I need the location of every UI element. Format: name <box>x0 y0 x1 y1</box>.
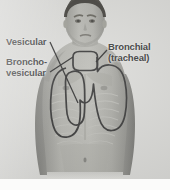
navel <box>84 158 87 163</box>
waistband <box>47 172 123 179</box>
body-illustration <box>0 0 170 179</box>
label-vesicular: Vesicular <box>6 37 46 48</box>
bottom-margin-strip <box>0 179 170 190</box>
label-bronchovesicular-line-1: Broncho- <box>6 57 47 68</box>
label-bronchial: Bronchial (tracheal) <box>108 42 150 63</box>
label-bronchial-line-1: Bronchial <box>108 42 150 53</box>
photograph-plate: Vesicular Broncho- vesicular Bronchial (… <box>0 0 170 179</box>
label-bronchovesicular: Broncho- vesicular <box>6 57 47 78</box>
label-bronchovesicular-line-2: vesicular <box>6 68 47 79</box>
label-bronchial-line-2: (tracheal) <box>108 53 150 64</box>
lung-auscultation-figure: Vesicular Broncho- vesicular Bronchial (… <box>0 0 170 190</box>
label-vesicular-line-1: Vesicular <box>6 37 46 48</box>
